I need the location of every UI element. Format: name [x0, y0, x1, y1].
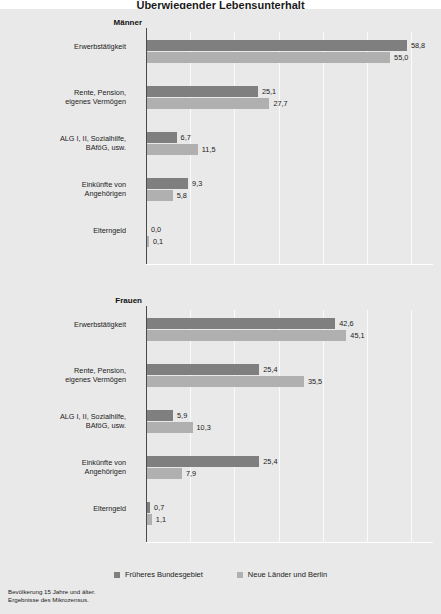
- bar-west: [147, 410, 173, 421]
- value-label: 25,4: [263, 456, 277, 467]
- value-label: 7,9: [186, 468, 196, 479]
- value-label: 6,7: [181, 132, 191, 143]
- category-label: ALG I, II, Sozialhilfe,BAföG, usw.: [0, 134, 126, 152]
- value-label: 10,3: [197, 422, 211, 433]
- gridline: [279, 32, 280, 264]
- bar-west: [147, 132, 177, 143]
- gridline: [279, 310, 280, 542]
- bar-east: [147, 514, 152, 525]
- bar-west: [147, 178, 188, 189]
- value-label: 11,5: [202, 144, 216, 155]
- panel-title: Männer: [22, 18, 142, 27]
- bar-west: [147, 502, 150, 513]
- value-label: 0,7: [154, 502, 164, 513]
- gridline: [323, 32, 324, 264]
- category-label: Erwerbstätigkeit: [0, 320, 126, 329]
- bar-east: [147, 330, 346, 341]
- bar-east: [147, 52, 390, 63]
- category-label: Rente, Pension,eigenes Vermögen: [0, 88, 126, 106]
- value-label: 9,3: [192, 178, 202, 189]
- value-label: 55,0: [394, 52, 408, 63]
- value-label: 35,5: [308, 376, 322, 387]
- legend-item-east: Neue Länder und Berlin: [237, 570, 327, 579]
- legend-label-west: Früheres Bundesgebiet: [125, 570, 203, 579]
- legend-swatch-east-icon: [237, 572, 243, 578]
- gridline: [367, 32, 368, 264]
- value-label: 45,1: [350, 330, 364, 341]
- bar-west: [147, 364, 259, 375]
- gridline: [323, 310, 324, 542]
- gridline: [411, 310, 412, 542]
- legend-label-east: Neue Länder und Berlin: [248, 570, 327, 579]
- bar-east: [147, 190, 173, 201]
- category-label: Elterngeld: [0, 504, 126, 513]
- value-label: 27,7: [273, 98, 287, 109]
- page-title: Überwiegender Lebensunterhalt: [0, 0, 441, 9]
- footnote: Bevölkerung 15 Jahre und älter. Ergebnis…: [8, 588, 95, 603]
- gridline: [367, 310, 368, 542]
- legend-swatch-west-icon: [114, 572, 120, 578]
- bar-west: [147, 456, 259, 467]
- value-label: 0,1: [153, 236, 163, 247]
- bar-east: [147, 98, 269, 109]
- gridline: [411, 32, 412, 264]
- value-label: 5,9: [177, 410, 187, 421]
- category-label: Erwerbstätigkeit: [0, 42, 126, 51]
- bar-east: [147, 422, 193, 433]
- bar-east: [147, 468, 182, 479]
- value-label: 0,0: [151, 224, 161, 235]
- chart-panel-frauen: FrauenErwerbstätigkeit42,645,1Rente, Pen…: [0, 296, 441, 552]
- value-label: 1,1: [156, 514, 166, 525]
- footnote-line-1: Bevölkerung 15 Jahre und älter.: [8, 588, 95, 596]
- bar-east: [147, 376, 304, 387]
- category-label: Elterngeld: [0, 226, 126, 235]
- value-label: 25,4: [263, 364, 277, 375]
- bar-west: [147, 40, 407, 51]
- category-label: Rente, Pension,eigenes Vermögen: [0, 366, 126, 384]
- category-label: ALG I, II, Sozialhilfe,BAföG, usw.: [0, 412, 126, 430]
- gridline: [234, 310, 235, 542]
- bar-west: [147, 86, 258, 97]
- gridline: [234, 32, 235, 264]
- axis-baseline: [146, 542, 433, 543]
- category-label: Einkünfte vonAngehörigen: [0, 180, 126, 198]
- bar-east: [147, 236, 149, 247]
- bar-east: [147, 144, 198, 155]
- panel-title: Frauen: [22, 296, 142, 305]
- legend-item-west: Früheres Bundesgebiet: [114, 570, 203, 579]
- chart-panel-maenner: MännerErwerbstätigkeit58,855,0Rente, Pen…: [0, 18, 441, 274]
- axis-baseline: [146, 264, 433, 265]
- value-label: 58,8: [411, 40, 425, 51]
- chart-legend: Früheres Bundesgebiet Neue Länder und Be…: [0, 570, 441, 579]
- chart-page: Überwiegender Lebensunterhalt MännerErwe…: [0, 0, 441, 614]
- value-label: 5,8: [177, 190, 187, 201]
- category-label: Einkünfte vonAngehörigen: [0, 458, 126, 476]
- value-label: 42,6: [339, 318, 353, 329]
- footnote-line-2: Ergebnisse des Mikrozensus.: [8, 596, 95, 604]
- value-label: 25,1: [262, 86, 276, 97]
- bar-west: [147, 318, 335, 329]
